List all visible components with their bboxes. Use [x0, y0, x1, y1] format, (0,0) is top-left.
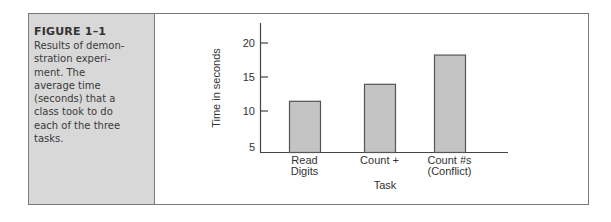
y-axis-label: Time in seconds [210, 48, 222, 128]
y-tick-label: 5 [249, 141, 255, 153]
y-tick-label: 10 [243, 105, 255, 117]
x-axis-label: Task [374, 179, 397, 191]
bars [290, 55, 466, 152]
x-tick-labels: ReadDigitsCount +Count #s(Conflict) [291, 154, 472, 177]
y-tick-label: 20 [243, 37, 255, 49]
x-tick-label: Count + [360, 154, 399, 166]
y-ticks: 5101520 [243, 37, 268, 153]
bar [365, 84, 396, 152]
bar [290, 101, 321, 152]
bar-chart: 5101520 ReadDigitsCount +Count #s(Confli… [0, 0, 611, 222]
y-tick-label: 15 [243, 71, 255, 83]
bar [435, 55, 466, 152]
x-tick-label: Digits [291, 165, 319, 177]
x-tick-label: (Conflict) [427, 165, 471, 177]
